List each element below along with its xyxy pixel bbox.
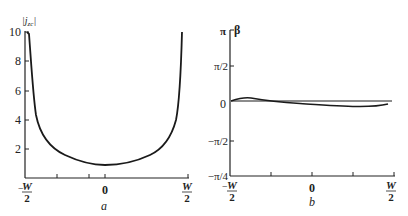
chart-b-xtick-left-den: 2	[229, 191, 235, 203]
chart-b-panel-label: b	[309, 195, 315, 209]
chart-a-ytick-10: 10	[9, 25, 21, 39]
chart-a: 10 8 6 4 2 |jzc| − W 2 0 W 2 a	[9, 15, 193, 213]
chart-b-y-ticks	[230, 66, 234, 141]
chart-a-xtick-right-den: 2	[184, 192, 190, 204]
chart-b-xtick-left-num: W	[227, 179, 238, 191]
chart-a-ylabel: |jzc|	[22, 15, 36, 28]
chart-a-ytick-8: 8	[15, 54, 21, 68]
chart-a-ytick-4: 4	[15, 113, 21, 127]
chart-b: π π/2 0 −π/2 −π/4 β − W 2 0 W 2 b	[208, 23, 397, 209]
chart-b-xtick-zero: 0	[309, 181, 315, 195]
chart-a-ytick-2: 2	[15, 142, 21, 156]
chart-b-ytick-zero: 0	[220, 97, 226, 111]
chart-a-xtick-left-num: W	[22, 180, 33, 192]
chart-a-xtick-right-num: W	[182, 180, 193, 192]
chart-b-ytick-neg-pi-half: −π/2	[208, 135, 228, 147]
chart-a-xtick-zero: 0	[102, 183, 108, 197]
chart-a-curve	[27, 32, 182, 165]
chart-a-ytick-6: 6	[15, 84, 21, 98]
chart-a-xtick-left-den: 2	[24, 192, 30, 204]
chart-b-curve-wavy	[231, 98, 388, 107]
chart-b-ytick-pi-half: π/2	[214, 60, 228, 72]
chart-a-panel-label: a	[101, 199, 107, 213]
chart-b-xtick-right-den: 2	[388, 191, 394, 203]
chart-b-ylabel: β	[234, 23, 240, 37]
chart-b-ytick-pi: π	[220, 25, 226, 37]
chart-b-xtick-right-num: W	[386, 179, 397, 191]
figure: 10 8 6 4 2 |jzc| − W 2 0 W 2 a	[0, 0, 408, 216]
